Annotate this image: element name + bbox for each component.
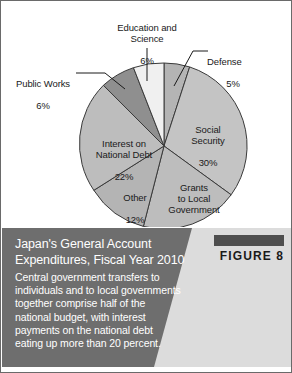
pie-label-social-security-value: 30%: [199, 157, 218, 168]
pie-label-interest-on-national-debt-value: 22%: [115, 171, 134, 182]
caption-body: Central government transfers to individu…: [15, 271, 197, 350]
pie-label-grants-to-local-government-name: Grants to Local Government: [168, 182, 219, 215]
pie-callout-public-works-value: 6%: [36, 100, 50, 111]
pie-callout-education-and-science-value: 6%: [140, 55, 154, 66]
pie-label-other-name: Other: [123, 192, 146, 203]
pie-chart-panel: Education and Science 6% Defense 5% Publ…: [1, 1, 291, 227]
pie-label-other: Other 12%: [111, 181, 159, 225]
caption-title: Japan's General Account Expenditures, Fi…: [15, 237, 197, 268]
pie-callout-education-and-science: Education and Science 6%: [91, 11, 203, 66]
figure-badge-bar: [214, 235, 284, 246]
pie-callout-education-and-science-name: Education and Science: [117, 22, 176, 44]
figure-container: Education and Science 6% Defense 5% Publ…: [0, 0, 292, 373]
caption-band: Japan's General Account Expenditures, Fi…: [2, 228, 292, 367]
pie-label-other-value: 12%: [126, 214, 145, 225]
pie-callout-public-works: Public Works 6%: [9, 67, 77, 111]
pie-callout-defense-value: 5%: [207, 78, 259, 89]
bottom-white-strip: [2, 367, 292, 373]
pie-label-interest-on-national-debt-name: Interest on National Debt: [96, 138, 152, 160]
caption-text-wrap: Japan's General Account Expenditures, Fi…: [15, 237, 197, 350]
pie-label-social-security-name: Social Security: [191, 124, 225, 146]
figure-badge-label: FIGURE 8: [214, 249, 284, 263]
pie-callout-defense: Defense 5%: [207, 45, 285, 89]
pie-callout-defense-name: Defense: [207, 56, 242, 67]
pie-label-interest-on-national-debt: Interest on National Debt 22%: [82, 127, 166, 182]
pie-label-social-security: Social Security 30%: [175, 113, 241, 168]
pie-callout-public-works-name: Public Works: [16, 78, 70, 89]
